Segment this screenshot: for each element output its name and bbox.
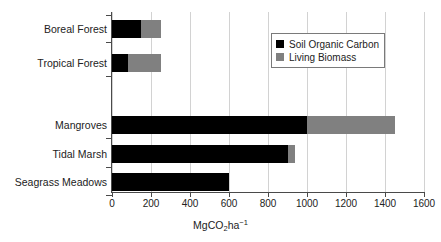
x-tick-label-200: 200 — [143, 198, 160, 209]
x-tick-600 — [229, 192, 230, 197]
x-tick-label-400: 400 — [182, 198, 199, 209]
x-tick-label-1400: 1400 — [374, 198, 396, 209]
bar-segment — [112, 145, 288, 163]
bar-segment — [307, 116, 395, 134]
x-tick-0 — [112, 192, 113, 197]
x-axis-title-mid: ha — [228, 219, 240, 231]
category-label: Tidal Marsh — [4, 145, 112, 163]
x-tick-400 — [190, 192, 191, 197]
y-axis-spine — [111, 12, 112, 192]
bar-row: Tropical Forest — [112, 54, 161, 72]
gridline-0 — [112, 12, 113, 192]
gridline-1600 — [424, 12, 425, 192]
bar-segment — [112, 116, 307, 134]
y-tick — [106, 76, 112, 77]
bar-segment — [112, 20, 141, 38]
y-tick — [106, 15, 112, 16]
category-label: Boreal Forest — [4, 20, 112, 38]
x-tick-1000 — [307, 192, 308, 197]
x-tick-label-0: 0 — [109, 198, 115, 209]
x-tick-1600 — [424, 192, 425, 197]
bar-segment — [112, 54, 128, 72]
bar-row: Boreal Forest — [112, 20, 161, 38]
bar-chart: Boreal ForestTropical ForestMangrovesTid… — [0, 0, 441, 242]
x-tick-label-1600: 1600 — [413, 198, 435, 209]
bar-segment — [288, 145, 296, 163]
x-tick-1200 — [346, 192, 347, 197]
gridline-600 — [229, 12, 230, 192]
bar-segment — [128, 54, 161, 72]
legend-item-soil-organic-carbon: Soil Organic Carbon — [276, 38, 379, 50]
y-tick — [106, 167, 112, 168]
bar-row: Tidal Marsh — [112, 145, 295, 163]
legend: Soil Organic Carbon Living Biomass — [271, 33, 385, 68]
legend-label-soil-organic-carbon: Soil Organic Carbon — [289, 39, 379, 50]
x-tick-label-800: 800 — [260, 198, 277, 209]
gridline-1400 — [385, 12, 386, 192]
x-axis-title: MgCO2ha−1 — [0, 218, 441, 233]
bar-segment — [141, 20, 161, 38]
category-label: Mangroves — [4, 116, 112, 134]
x-axis-title-superscript: −1 — [239, 218, 248, 227]
bar-row: Seagrass Meadows — [112, 173, 229, 191]
legend-swatch-soil-organic-carbon — [276, 40, 284, 48]
gridline-800 — [268, 12, 269, 192]
legend-swatch-living-biomass — [276, 53, 284, 61]
gridline-400 — [190, 12, 191, 192]
legend-label-living-biomass: Living Biomass — [289, 52, 356, 63]
category-label: Seagrass Meadows — [4, 173, 112, 191]
y-tick — [106, 138, 112, 139]
x-tick-label-1200: 1200 — [335, 198, 357, 209]
x-tick-800 — [268, 192, 269, 197]
legend-item-living-biomass: Living Biomass — [276, 51, 379, 63]
gridline-200 — [151, 12, 152, 192]
x-tick-label-1000: 1000 — [296, 198, 318, 209]
bar-row: Mangroves — [112, 116, 395, 134]
x-tick-200 — [151, 192, 152, 197]
x-tick-1400 — [385, 192, 386, 197]
bar-segment — [112, 173, 229, 191]
y-tick — [106, 42, 112, 43]
category-label: Tropical Forest — [4, 54, 112, 72]
x-axis-title-prefix: MgCO — [193, 219, 223, 231]
x-tick-label-600: 600 — [221, 198, 238, 209]
